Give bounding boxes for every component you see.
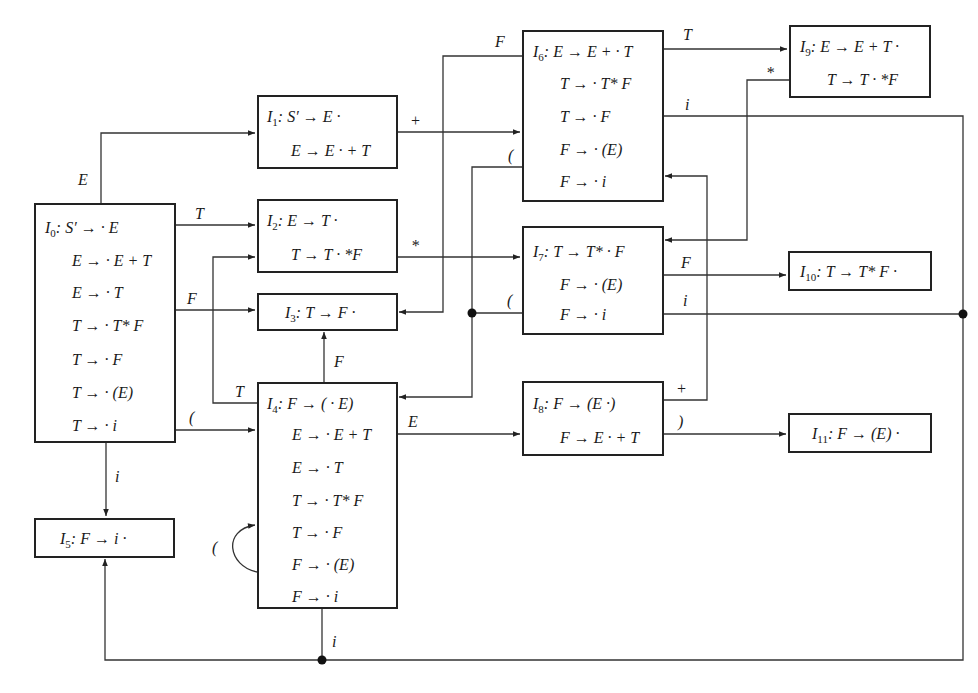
edge-label: E xyxy=(78,172,88,188)
state-label: I10: T → T* F · xyxy=(800,264,897,283)
edge-I6-I3 xyxy=(399,56,522,312)
lr-item: F → · i xyxy=(292,589,338,605)
lr-item: T → · F xyxy=(560,109,610,125)
state-label: I3: T → F · xyxy=(285,305,356,324)
state-I1: I1: S′ → E · E → E · + T xyxy=(257,95,398,169)
edge-label: F xyxy=(681,255,691,271)
state-label: I11: F → (E) · xyxy=(812,426,899,445)
junction-dot-right xyxy=(959,310,968,319)
state-label: I7: T → T* · F xyxy=(533,244,624,263)
edge-label: E xyxy=(408,414,418,430)
edge-I8-I6 xyxy=(663,176,707,400)
edge-label: i xyxy=(115,469,119,485)
lr-item: T → · T* F xyxy=(72,318,143,334)
state-I6: I6: E → E + · T T → · T* F T → · F F → ·… xyxy=(522,30,664,202)
junction-dot-bottom xyxy=(318,656,327,665)
lr-item: E → · T xyxy=(292,460,343,476)
lr-item: T → · T* F xyxy=(560,76,631,92)
edge-I4-I4 xyxy=(233,525,257,572)
state-label: I6: E → E + · T xyxy=(533,44,632,63)
edge-label: + xyxy=(676,381,687,397)
state-label: I5: F → i · xyxy=(60,531,126,550)
lr-item: T → · F xyxy=(72,352,122,368)
state-I4: I4: F → ( · E) E → · E + T E → · T T → ·… xyxy=(257,382,398,609)
lr-item: T → · i xyxy=(72,418,117,434)
state-label: I8: F → (E ·) xyxy=(533,396,615,415)
lr-item: E → E · + T xyxy=(291,143,370,159)
edge-label: i xyxy=(332,634,336,650)
edge-label: T xyxy=(195,206,204,222)
lr-item: T → · T* F xyxy=(292,493,363,509)
state-I10: I10: T → T* F · xyxy=(788,251,932,291)
junction-dot-left xyxy=(468,309,477,318)
edge-label: * xyxy=(411,238,419,254)
edge-label: F xyxy=(334,354,344,370)
state-label: I0: S′ → · E xyxy=(45,220,118,239)
lr-item: E → · E + T xyxy=(72,253,151,269)
state-I8: I8: F → (E ·) F → E · + T xyxy=(522,381,664,456)
lr-item: E → · T xyxy=(72,285,123,301)
state-label: I4: F → ( · E) xyxy=(267,396,353,415)
edge-I9-I7 xyxy=(665,80,789,240)
edge-label: F xyxy=(187,291,197,307)
state-I3: I3: T → F · xyxy=(257,293,398,331)
state-I2: I2: E → T · T → T · *F xyxy=(257,199,398,273)
lr-item: F → · i xyxy=(560,174,606,190)
lr-item: F → · (E) xyxy=(560,277,622,293)
edge-label: T xyxy=(683,27,692,43)
edge-label: i xyxy=(685,97,689,113)
lr-item: F → · (E) xyxy=(560,142,622,158)
state-I11: I11: F → (E) · xyxy=(788,413,932,453)
edge-label: * xyxy=(766,65,774,81)
edge-label: T xyxy=(235,384,244,400)
edge-label: i xyxy=(683,293,687,309)
edge-I6-I4 xyxy=(399,167,522,397)
edge-label: ( xyxy=(212,540,217,556)
state-I7: I7: T → T* · F F → · (E) F → · i xyxy=(522,226,664,335)
lr-item: T → · F xyxy=(292,525,342,541)
edge-label: ( xyxy=(507,293,512,309)
edge-I4-I2 xyxy=(213,257,257,403)
state-I5: I5: F → i · xyxy=(34,518,175,558)
lr-item: T → · (E) xyxy=(72,385,133,401)
lr-item: E → · E + T xyxy=(292,427,371,443)
state-label: I1: S′ → E · xyxy=(267,109,340,128)
state-label: I2: E → T · xyxy=(267,213,338,232)
edge-bus-I5 xyxy=(105,313,963,660)
lr-item: F → E · + T xyxy=(560,430,639,446)
lr-item: T → T · *F xyxy=(291,247,362,263)
state-I0: I0: S′ → · E E → · E + T E → · T T → · T… xyxy=(34,203,176,443)
lr-item: F → · i xyxy=(560,307,606,323)
lr-item: F → · (E) xyxy=(292,557,354,573)
edge-label: ( xyxy=(189,410,194,426)
edge-label: ) xyxy=(678,414,683,430)
edge-label: F xyxy=(495,34,505,50)
edge-label: + xyxy=(410,113,421,129)
state-label: I9: E → E + T · xyxy=(800,39,899,58)
edge-label: ( xyxy=(508,148,513,164)
state-I9: I9: E → E + T · T → T · *F xyxy=(789,25,931,98)
lr-item: T → T · *F xyxy=(827,72,898,88)
edge-I0-I1 xyxy=(101,133,255,203)
